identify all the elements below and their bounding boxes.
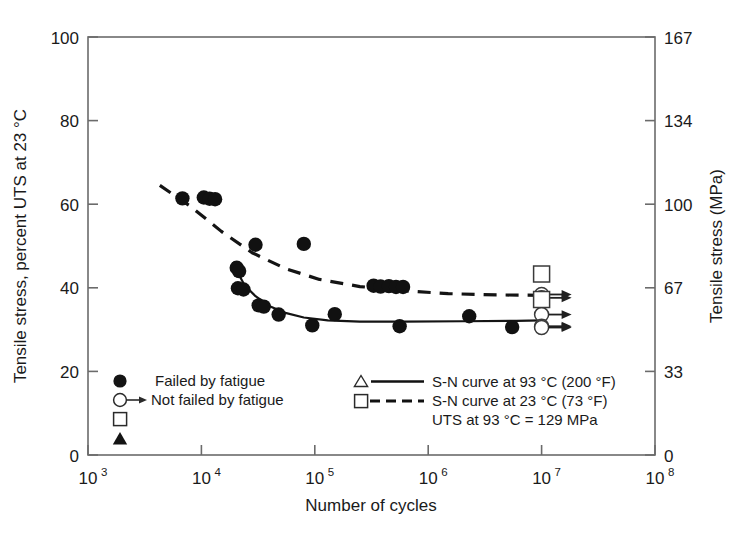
data-point-failed <box>257 299 271 313</box>
chart-background <box>0 0 740 538</box>
data-point-failed <box>462 309 476 323</box>
data-point-failed <box>236 282 250 296</box>
x-ticklabel-1e4-exp: 4 <box>214 466 221 478</box>
y-right-ticklabel-167: 167 <box>664 29 692 48</box>
x-axis-title: Number of cycles <box>305 496 436 515</box>
runout-circle-icon <box>535 321 549 335</box>
y-left-ticklabel-80: 80 <box>60 112 79 131</box>
legend-open-square-icon <box>114 413 127 426</box>
x-ticklabel-1e3-base: 10 <box>79 469 98 488</box>
y-right-ticklabel-67: 67 <box>664 279 683 298</box>
y-left-ticklabel-20: 20 <box>60 363 79 382</box>
legend-label-sn-93c: S-N curve at 93 °C (200 °F) <box>432 373 616 390</box>
x-ticklabel-1e5-base: 10 <box>305 469 324 488</box>
legend-label-not-failed: Not failed by fatigue <box>151 391 284 408</box>
y-axis-left-title: Tensile stress, percent UTS at 23 °C <box>11 109 30 383</box>
y-right-ticklabel-0: 0 <box>664 447 673 466</box>
legend-filled-circle-icon <box>113 374 126 387</box>
chart-page: 0 20 40 60 80 100 Tensile stress, percen… <box>0 0 740 538</box>
data-point-failed <box>248 238 262 252</box>
data-point-failed <box>297 237 311 251</box>
data-point-failed <box>392 319 406 333</box>
x-ticklabel-1e8-exp: 8 <box>668 466 674 478</box>
x-ticklabel-1e5-exp: 5 <box>328 466 334 478</box>
data-point-failed <box>208 192 222 206</box>
data-point-open-square <box>534 292 550 308</box>
y-left-ticklabel-0: 0 <box>70 447 79 466</box>
x-ticklabel-1e6-exp: 6 <box>441 466 447 478</box>
y-right-ticklabel-134: 134 <box>664 112 692 131</box>
y-left-ticklabel-100: 100 <box>51 29 79 48</box>
x-ticklabel-1e3-exp: 3 <box>101 466 107 478</box>
x-ticklabel-1e6-base: 10 <box>419 469 438 488</box>
data-point-failed <box>271 307 285 321</box>
legend-open-square-icon-2 <box>355 395 368 408</box>
y-axis-right-title: Tensile stress (MPa) <box>707 169 726 323</box>
data-point-failed <box>305 318 319 332</box>
x-ticklabel-1e7-exp: 7 <box>555 466 561 478</box>
data-point-open-square <box>534 266 550 282</box>
data-point-failed <box>175 191 189 205</box>
data-point-failed <box>396 280 410 294</box>
legend-label-sn-23c: S-N curve at 23 °C (73 °F) <box>432 392 607 409</box>
data-point-failed <box>232 264 246 278</box>
x-ticklabel-1e7-base: 10 <box>532 469 551 488</box>
x-ticklabel-1e4-base: 10 <box>192 469 211 488</box>
data-point-failed <box>505 320 519 334</box>
y-left-ticklabel-40: 40 <box>60 279 79 298</box>
x-ticklabel-1e8-base: 10 <box>646 469 665 488</box>
y-right-ticklabel-33: 33 <box>664 363 683 382</box>
y-right-ticklabel-100: 100 <box>664 196 692 215</box>
legend-label-failed: Failed by fatigue <box>155 372 265 389</box>
sn-fatigue-chart: 0 20 40 60 80 100 Tensile stress, percen… <box>0 0 740 538</box>
legend-label-uts-note: UTS at 93 °C = 129 MPa <box>432 411 598 428</box>
data-point-failed <box>328 307 342 321</box>
y-left-ticklabel-60: 60 <box>60 196 79 215</box>
